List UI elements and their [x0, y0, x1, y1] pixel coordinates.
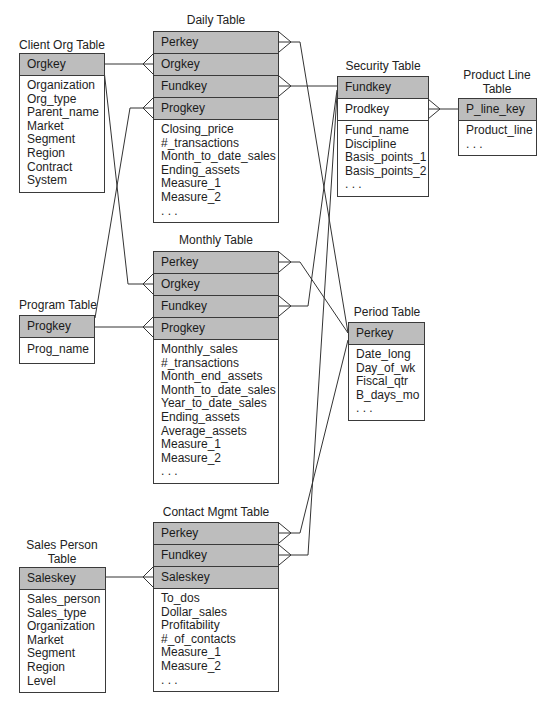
- field: Basis_points_2: [345, 165, 428, 179]
- monthly-table-title: Monthly Table: [153, 233, 279, 247]
- monthly-key-fundkey[interactable]: Fundkey: [154, 296, 278, 318]
- field: To_dos: [161, 592, 278, 606]
- period-key-perkey[interactable]: Perkey: [349, 323, 424, 345]
- field: System: [27, 174, 104, 188]
- field: Parent_name: [27, 106, 104, 120]
- client-org-fields: Organization Org_type Parent_name Market…: [20, 76, 104, 192]
- sales-person-table-title: Sales Person Table: [16, 538, 108, 566]
- field: Fiscal_qtr: [356, 375, 424, 389]
- title-line: Sales Person: [16, 538, 108, 552]
- field-ellipsis: . . .: [356, 402, 424, 416]
- daily-key-progkey[interactable]: Progkey: [154, 98, 278, 120]
- rel-contact-period: [279, 340, 348, 543]
- field-ellipsis: . . .: [161, 465, 278, 479]
- daily-key-fundkey[interactable]: Fundkey: [154, 76, 278, 98]
- rel-monthly-security: [279, 90, 337, 316]
- field: Organization: [27, 79, 104, 93]
- field: Month_to_date_sales: [161, 384, 278, 398]
- sales-person-table[interactable]: Saleskey Sales_person Sales_type Organiz…: [19, 567, 106, 693]
- product-line-table[interactable]: P_line_key Product_line . . .: [458, 98, 537, 156]
- field: Org_type: [27, 93, 104, 107]
- sales-person-fields: Sales_person Sales_type Organization Mar…: [20, 590, 105, 692]
- field: Fund_name: [345, 124, 428, 138]
- field: Level: [27, 675, 105, 689]
- daily-table[interactable]: Perkey Orgkey Fundkey Progkey Closing_pr…: [153, 31, 279, 223]
- monthly-key-orgkey[interactable]: Orgkey: [154, 274, 278, 296]
- rel-clientorg-monthly: [104, 70, 153, 294]
- title-line: Product Line: [450, 68, 544, 82]
- rel-program-monthly: [95, 317, 153, 337]
- field-ellipsis: . . .: [161, 205, 278, 219]
- field: Measure_2: [161, 660, 278, 674]
- field: Region: [27, 147, 104, 161]
- field: Sales_type: [27, 607, 105, 621]
- field: B_days_mo: [356, 389, 424, 403]
- field: Closing_price: [161, 123, 278, 137]
- contact-mgmt-key-fundkey[interactable]: Fundkey: [154, 545, 278, 567]
- field: Market: [27, 634, 105, 648]
- client-org-key-orgkey[interactable]: Orgkey: [20, 54, 104, 76]
- daily-table-title: Daily Table: [153, 13, 279, 27]
- contact-mgmt-table-title: Contact Mgmt Table: [153, 505, 279, 519]
- field: Measure_1: [161, 438, 278, 452]
- field: Sales_person: [27, 593, 105, 607]
- field: Region: [27, 661, 105, 675]
- field: #_transactions: [161, 137, 278, 151]
- field: Contract: [27, 161, 104, 175]
- client-org-table[interactable]: Orgkey Organization Org_type Parent_name…: [19, 53, 105, 193]
- security-fields: Fund_name Discipline Basis_points_1 Basi…: [338, 121, 428, 196]
- contact-mgmt-key-saleskey[interactable]: Saleskey: [154, 567, 278, 589]
- field: Basis_points_1: [345, 151, 428, 165]
- client-org-table-title: Client Org Table: [14, 38, 110, 52]
- contact-mgmt-fields: To_dos Dollar_sales Profitability #_of_c…: [154, 589, 278, 691]
- monthly-key-progkey[interactable]: Progkey: [154, 318, 278, 340]
- security-key-fundkey[interactable]: Fundkey: [338, 77, 428, 99]
- field: Measure_1: [161, 177, 278, 191]
- field: Month_end_assets: [161, 370, 278, 384]
- daily-fields: Closing_price #_transactions Month_to_da…: [154, 120, 278, 222]
- contact-mgmt-table[interactable]: Perkey Fundkey Saleskey To_dos Dollar_sa…: [153, 522, 279, 692]
- program-table-title: Program Table: [17, 298, 99, 312]
- period-table-title: Period Table: [345, 305, 429, 319]
- field: Year_to_date_sales: [161, 397, 278, 411]
- contact-mgmt-key-perkey[interactable]: Perkey: [154, 523, 278, 545]
- rel-clientorg-daily: [104, 54, 153, 74]
- field: #_of_contacts: [161, 633, 278, 647]
- rel-security-productline: [428, 99, 458, 119]
- field: Organization: [27, 620, 105, 634]
- field: #_transactions: [161, 357, 278, 371]
- security-key-prodkey[interactable]: Prodkey: [338, 99, 428, 121]
- period-table[interactable]: Perkey Date_long Day_of_wk Fiscal_qtr B_…: [348, 322, 425, 421]
- sales-person-key-saleskey[interactable]: Saleskey: [20, 568, 105, 590]
- field: Segment: [27, 133, 104, 147]
- title-line: Table: [450, 82, 544, 96]
- field: Measure_1: [161, 646, 278, 660]
- field: Measure_2: [161, 452, 278, 466]
- rel-contact-security: [279, 94, 337, 565]
- field: Prog_name: [27, 343, 94, 357]
- field-ellipsis: . . .: [466, 138, 536, 152]
- monthly-key-perkey[interactable]: Perkey: [154, 252, 278, 274]
- field: Day_of_wk: [356, 362, 424, 376]
- security-table[interactable]: Fundkey Prodkey Fund_name Discipline Bas…: [337, 76, 429, 197]
- product-line-fields: Product_line . . .: [459, 121, 536, 155]
- product-line-table-title: Product Line Table: [450, 68, 544, 96]
- field: Market: [27, 120, 104, 134]
- field-ellipsis: . . .: [161, 674, 278, 688]
- daily-key-orgkey[interactable]: Orgkey: [154, 54, 278, 76]
- program-table[interactable]: Progkey Prog_name: [19, 315, 95, 364]
- field: Month_to_date_sales: [161, 150, 278, 164]
- monthly-fields: Monthly_sales #_transactions Month_end_a…: [154, 340, 278, 483]
- field: Measure_2: [161, 191, 278, 205]
- field: Monthly_sales: [161, 343, 278, 357]
- product-line-key-p-line-key[interactable]: P_line_key: [459, 99, 536, 121]
- rel-monthly-period: [279, 252, 348, 333]
- program-key-progkey[interactable]: Progkey: [20, 316, 94, 338]
- rel-daily-security: [279, 76, 337, 96]
- title-line: Table: [16, 552, 108, 566]
- daily-key-perkey[interactable]: Perkey: [154, 32, 278, 54]
- field: Ending_assets: [161, 164, 278, 178]
- field: Discipline: [345, 138, 428, 152]
- field: Product_line: [466, 124, 536, 138]
- monthly-table[interactable]: Perkey Orgkey Fundkey Progkey Monthly_sa…: [153, 251, 279, 484]
